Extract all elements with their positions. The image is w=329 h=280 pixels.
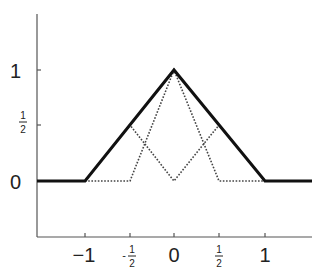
y-label-zero: 0 [10,171,21,193]
x-label-zero: 0 [168,244,179,266]
x-label-half: 1 2 [215,244,223,269]
x-label-one: 1 [259,244,270,266]
center-hat-dotted [85,70,265,181]
x-label-minus-half: - 1 2 [122,244,136,269]
hat-function-solid [37,70,312,181]
axes [37,14,312,237]
svg-text:1: 1 [20,110,26,121]
dotted-components [85,70,265,181]
svg-text:-: - [122,249,126,261]
svg-text:2: 2 [20,124,26,135]
svg-text:1: 1 [216,244,222,255]
side-hats-dotted [85,125,265,181]
svg-text:2: 2 [129,258,135,269]
svg-text:1: 1 [129,244,135,255]
x-label-minus-one: −1 [73,244,96,266]
hat-function-diagram: 1 1 2 0 −1 - 1 2 0 1 2 1 [0,0,329,280]
y-label-half: 1 2 [19,110,27,135]
svg-text:2: 2 [216,258,222,269]
y-label-one: 1 [10,60,21,82]
